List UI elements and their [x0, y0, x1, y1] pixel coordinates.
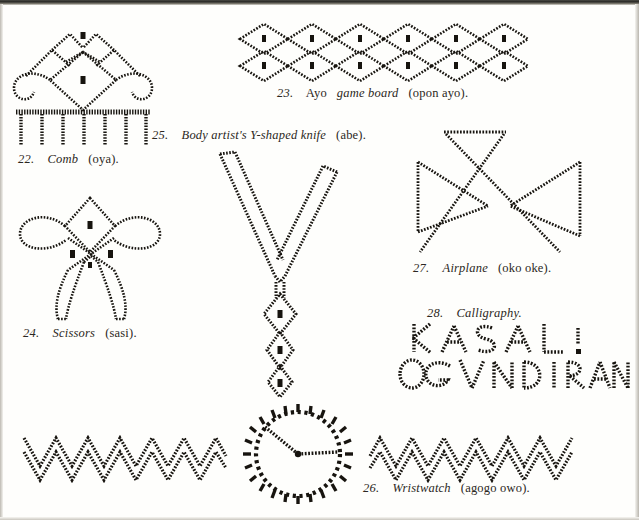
caption-comb-term: (oya).	[88, 152, 119, 166]
figure-y-shaped-knife	[213, 148, 348, 398]
caption-airplane-title: Airplane	[443, 261, 488, 275]
caption-scissors: 24. Scissors (sasi).	[23, 326, 137, 341]
figure-airplane	[410, 128, 590, 260]
caption-comb-title: Comb	[48, 152, 79, 166]
caption-airplane-term: (oko oke).	[498, 261, 551, 275]
caption-calligraphy-title: Calligraphy.	[457, 306, 522, 320]
figure-ayo-board	[236, 22, 536, 84]
caption-wristwatch-number: 26.	[363, 481, 379, 495]
caption-calligraphy-number: 28.	[427, 306, 443, 320]
airplane-drawing	[410, 128, 590, 260]
caption-comb-number: 22.	[18, 152, 34, 166]
caption-ayo-term: (opon ayo).	[408, 86, 468, 100]
caption-scissors-number: 24.	[23, 326, 39, 340]
caption-airplane-number: 27.	[413, 261, 429, 275]
knife-drawing	[213, 148, 348, 398]
scissors-drawing	[18, 190, 168, 320]
caption-ayo-title: game board	[337, 86, 399, 100]
scan-edge-right	[635, 4, 639, 520]
caption-ayo-lead: Ayo	[306, 86, 327, 100]
scan-edge-top	[0, 0, 639, 5]
figure-scissors	[18, 190, 168, 320]
ayo-board-drawing	[236, 22, 536, 84]
caption-scissors-term: (sasi).	[105, 326, 137, 340]
caption-ayo-board: 23. Ayo game board (opon ayo).	[277, 86, 468, 101]
caption-knife-term: (abe).	[336, 128, 366, 142]
caption-wristwatch: 26. Wristwatch (agogo owo).	[363, 481, 530, 496]
figure-calligraphy	[398, 322, 630, 390]
caption-wristwatch-term: (agogo owo).	[461, 481, 530, 495]
caption-comb: 22. Comb (oya).	[18, 152, 119, 167]
calligraphy-drawing	[398, 322, 630, 390]
caption-airplane: 27. Airplane (oko oke).	[413, 261, 551, 276]
caption-ayo-number: 23.	[277, 86, 293, 100]
caption-wristwatch-title: Wristwatch	[393, 481, 451, 495]
caption-scissors-title: Scissors	[53, 326, 96, 340]
caption-knife-number: 25.	[152, 128, 168, 142]
caption-knife-title: Body artist's Y-shaped knife	[182, 128, 327, 142]
caption-knife: 25. Body artist's Y-shaped knife (abe).	[152, 128, 366, 143]
caption-calligraphy: 28. Calligraphy.	[427, 306, 522, 321]
figure-plate-page: 22. Comb (oya).	[0, 0, 639, 520]
scan-edge-left	[0, 4, 3, 520]
